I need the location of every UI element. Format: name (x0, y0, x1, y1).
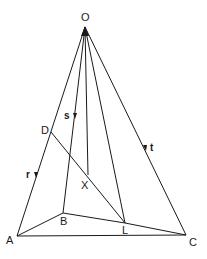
point-label-B: B (60, 215, 67, 227)
vector-r-arrow-icon (34, 172, 38, 178)
vector-label-t: t (150, 142, 154, 153)
edge-B-L (63, 213, 125, 223)
edge-O-L (85, 27, 125, 223)
point-label-A: A (6, 234, 14, 246)
vector-s-arrow-icon (73, 113, 77, 119)
edge-O-A (17, 27, 85, 236)
point-label-X: X (81, 179, 89, 191)
edge-A-C (17, 235, 186, 236)
edge-L-C (125, 223, 186, 235)
point-label-O: O (81, 11, 90, 23)
vector-label-r: r (26, 169, 30, 180)
point-label-L: L (122, 224, 128, 236)
apex-arrow-icon (81, 26, 89, 36)
vector-label-s: s (64, 110, 70, 121)
edge-A-B (17, 213, 63, 236)
vector-geometry-diagram: O A B C L D X r s t (0, 0, 207, 259)
point-label-D: D (41, 124, 49, 136)
edge-O-X (85, 27, 88, 175)
edge-O-C (85, 27, 186, 235)
point-label-C: C (189, 236, 197, 248)
edge-D-L (51, 132, 125, 223)
